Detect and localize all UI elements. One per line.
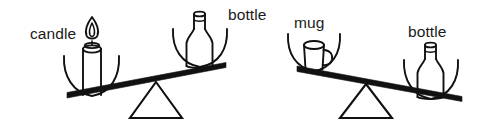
bottle1-mouth xyxy=(194,12,205,17)
label-bottle-right: bottle xyxy=(408,23,447,40)
right-scale: mug bottle xyxy=(288,14,462,118)
left-scale-right-pan-arc xyxy=(173,29,227,67)
left-scale-beam xyxy=(67,63,226,99)
candle-icon xyxy=(83,17,101,95)
mug-icon xyxy=(304,41,332,71)
bottle1-collar xyxy=(194,20,205,21)
label-mug: mug xyxy=(294,14,324,31)
left-scale: candle bottle xyxy=(30,6,267,118)
label-bottle-left: bottle xyxy=(228,6,267,23)
candle-flame-inner xyxy=(90,23,95,37)
bottle2-shoulder-right xyxy=(436,59,444,97)
bottle2-collar xyxy=(425,51,436,52)
bottle1-shoulder-left xyxy=(187,29,195,66)
right-scale-fulcrum xyxy=(340,84,392,118)
candle-flame-outline xyxy=(86,17,98,39)
bottle1-shoulder-right xyxy=(205,29,213,66)
right-scale-left-pan-arc xyxy=(288,34,340,71)
bottle-icon-left-scale xyxy=(187,12,213,68)
left-scale-fulcrum xyxy=(130,82,182,118)
mug-top-ellipse xyxy=(304,41,324,49)
figure-canvas: candle bottle xyxy=(0,0,478,126)
label-candle: candle xyxy=(30,25,76,42)
right-scale-beam xyxy=(297,66,462,102)
bottle2-mouth xyxy=(425,43,436,48)
mug-body-left xyxy=(304,45,306,69)
balance-scale-figure: candle bottle xyxy=(0,0,478,126)
